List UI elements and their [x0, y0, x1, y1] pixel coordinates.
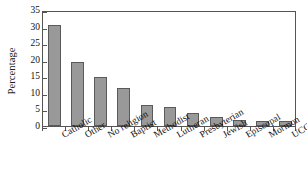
x-axis-tick-label: Mormon: [267, 131, 273, 141]
y-axis-tick-labels: 05101520253035: [18, 11, 40, 127]
y-axis-tick-label: 10: [31, 89, 41, 99]
x-axis-tick-label: Catholic: [60, 131, 66, 141]
x-axis-tick-label: Methodist: [152, 131, 158, 141]
x-axis-tick-label: Presbyterian: [198, 131, 204, 141]
x-axis-tick-label: Lutheran: [175, 131, 181, 141]
x-axis-tick-label: Baptist: [129, 131, 135, 141]
y-axis-tick-label: 0: [35, 122, 40, 132]
y-axis-tick-label: 5: [35, 106, 40, 116]
y-axis-tick-mark: [43, 95, 47, 96]
y-axis-tick-label: 30: [31, 23, 41, 33]
plot-inner: [43, 12, 295, 126]
y-axis-tick-mark: [43, 78, 47, 79]
y-axis-tick-mark: [43, 12, 47, 13]
x-axis-tick-label: UCC: [290, 131, 296, 141]
bar: [48, 25, 61, 126]
x-axis-tick-label: No religion: [106, 131, 112, 141]
x-axis-tick-label: Jewish: [221, 131, 227, 141]
y-axis-tick-mark: [43, 45, 47, 46]
y-axis-tick-label: 25: [31, 39, 41, 49]
y-axis-tick-mark: [43, 29, 47, 30]
bar: [71, 62, 84, 126]
y-axis-tick-mark: [43, 62, 47, 63]
plot-area: [42, 11, 296, 127]
y-axis-tick-label: 20: [31, 56, 41, 66]
x-axis-tick-labels: CatholicOtherNo religionBaptistMethodist…: [42, 131, 296, 185]
y-axis-tick-label: 35: [31, 6, 41, 16]
bar: [94, 77, 107, 126]
bar-chart-figure: Percentage 05101520253035 CatholicOtherN…: [0, 0, 307, 185]
x-axis-tick-label: Other: [83, 131, 89, 141]
y-axis-tick-mark: [43, 111, 47, 112]
y-axis-tick-label: 15: [31, 73, 41, 83]
x-axis-tick-label: Episcopal: [244, 131, 250, 141]
